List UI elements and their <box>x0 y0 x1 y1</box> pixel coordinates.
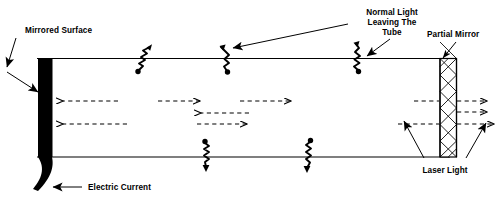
mirrored-surface-block <box>38 58 53 157</box>
electric-current-wire <box>33 157 53 191</box>
photon-emission-top-2 <box>220 45 231 75</box>
internal-rays-group <box>63 101 439 124</box>
label-mirrored-surface: Mirrored Surface <box>25 26 92 35</box>
photon-emission-top-1 <box>135 44 152 74</box>
label-partial-mirror: Partial Mirror <box>427 30 480 39</box>
annotation-leaders-group <box>7 24 486 187</box>
laser-tube <box>37 59 450 158</box>
laser-diagram-figure: Mirrored Surface Normal Light Leaving Th… <box>0 0 503 202</box>
label-normal-light-line2: Leaving The <box>368 18 417 27</box>
photon-emission-bottom-1 <box>202 139 209 172</box>
leader-normal-light-left <box>233 24 348 48</box>
label-normal-light-line3: Tube <box>382 28 402 37</box>
photon-emission-bottom-2 <box>304 138 314 173</box>
photon-emission-top-3 <box>354 41 362 74</box>
label-electric-current: Electric Current <box>88 183 151 192</box>
laser-diagram-svg: Mirrored Surface Normal Light Leaving Th… <box>0 0 503 202</box>
leader-normal-light-right <box>367 39 390 56</box>
laser-output-rays-group <box>457 101 494 124</box>
label-laser-light: Laser Light <box>422 166 467 175</box>
partial-mirror-block <box>440 42 457 157</box>
leader-mirrored-surface-lower <box>7 72 38 92</box>
leader-mirrored-surface-upper <box>7 38 16 67</box>
leader-laser-light-right <box>466 123 486 158</box>
label-normal-light-line1: Normal Light <box>366 8 418 17</box>
leader-laser-light-left <box>404 121 424 158</box>
